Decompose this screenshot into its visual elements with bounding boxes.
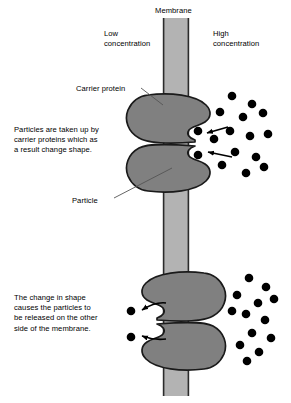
pocket-particles-upper	[194, 127, 203, 160]
carrier-protein-release	[142, 272, 226, 370]
label-high-concentration: High concentration	[213, 29, 259, 48]
transport-diagram: Membrane Low concentration High concentr…	[0, 0, 291, 403]
label-membrane: Membrane	[155, 6, 192, 16]
label-carrier-protein: Carrier protein	[76, 84, 125, 94]
label-particle: Particle	[72, 196, 98, 206]
particle-cloud-lower	[228, 274, 279, 366]
carrier-protein-uptake	[126, 94, 210, 192]
annotation-release: The change in shape causes the particles…	[14, 293, 98, 334]
diagram-canvas	[0, 0, 291, 403]
annotation-uptake: Particles are taken up by carrier protei…	[14, 125, 99, 156]
label-low-concentration: Low concentration	[104, 29, 150, 48]
particle-cloud-upper	[210, 92, 273, 178]
released-particles	[127, 307, 136, 342]
